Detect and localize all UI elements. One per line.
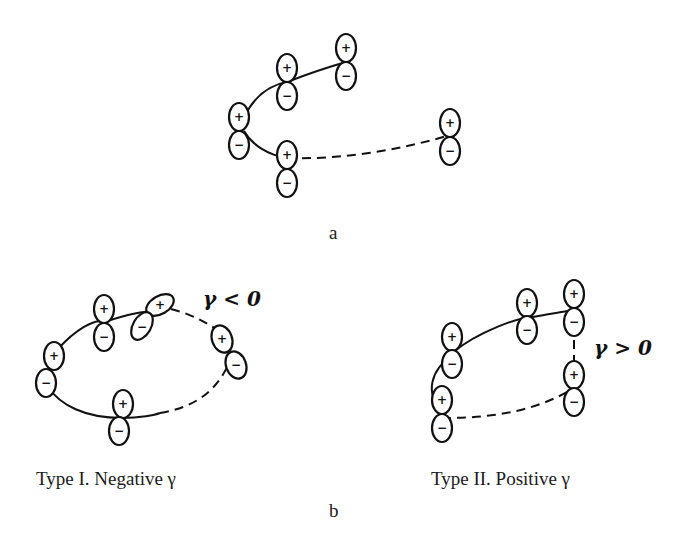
panel-b-type-ii: + − + − + − + − + − γ > 0 <box>432 280 652 442</box>
orbital-a4: + − <box>277 141 297 197</box>
svg-text:+: + <box>155 298 165 312</box>
orbital-a1: + − <box>336 34 356 90</box>
orbital-b1-3: + − <box>127 290 178 344</box>
panel-b-type-i: + − + − + − + − + − γ < 0 <box>36 287 261 445</box>
orbital-diagram: + − + − + − + − + − + − + − <box>0 0 677 540</box>
svg-text:+: + <box>569 368 579 382</box>
type-i-caption: Type I. Negative γ <box>36 468 176 490</box>
gamma-negative-annotation: γ < 0 <box>203 287 261 311</box>
svg-text:−: − <box>234 138 244 152</box>
svg-text:+: + <box>522 296 532 310</box>
svg-text:+: + <box>437 393 447 407</box>
svg-text:−: − <box>137 320 147 334</box>
panel-b-label: b <box>329 500 339 522</box>
orbital-b2-4: + − <box>564 361 584 416</box>
svg-text:−: − <box>282 89 292 103</box>
svg-text:−: − <box>445 144 455 158</box>
svg-text:+: + <box>234 110 244 124</box>
orbital-b2-1: + − <box>442 323 462 378</box>
gamma-positive-annotation: γ > 0 <box>594 336 652 360</box>
orbital-b1-4: + − <box>208 322 250 381</box>
svg-text:−: − <box>341 69 351 83</box>
orbital-b2-5: + − <box>432 386 452 442</box>
panel-a: + − + − + − + − + − <box>229 34 460 197</box>
orbital-b2-3: + − <box>564 280 584 336</box>
svg-text:+: + <box>282 148 292 162</box>
orbital-b1-1: + − <box>36 342 64 397</box>
svg-text:−: − <box>569 395 579 409</box>
svg-text:+: + <box>99 302 109 316</box>
svg-text:+: + <box>445 116 455 130</box>
type-ii-caption: Type II. Positive γ <box>431 468 570 490</box>
svg-text:+: + <box>118 397 128 411</box>
svg-text:−: − <box>569 315 579 329</box>
svg-text:+: + <box>49 349 59 363</box>
svg-text:−: − <box>522 323 532 337</box>
svg-text:−: − <box>447 357 457 371</box>
svg-text:−: − <box>99 330 109 344</box>
svg-text:+: + <box>282 61 292 75</box>
svg-text:−: − <box>437 421 447 435</box>
svg-text:+: + <box>447 330 457 344</box>
svg-text:−: − <box>41 376 51 390</box>
orbital-b1-2: + − <box>94 295 114 351</box>
svg-text:−: − <box>231 358 241 372</box>
orbital-a2: + − <box>277 54 297 110</box>
svg-text:−: − <box>114 424 124 438</box>
svg-text:+: + <box>217 332 227 346</box>
orbital-a3: + − <box>229 103 249 159</box>
svg-text:+: + <box>341 41 351 55</box>
svg-text:−: − <box>282 176 292 190</box>
panel-a-label: a <box>329 222 337 244</box>
svg-text:+: + <box>569 287 579 301</box>
